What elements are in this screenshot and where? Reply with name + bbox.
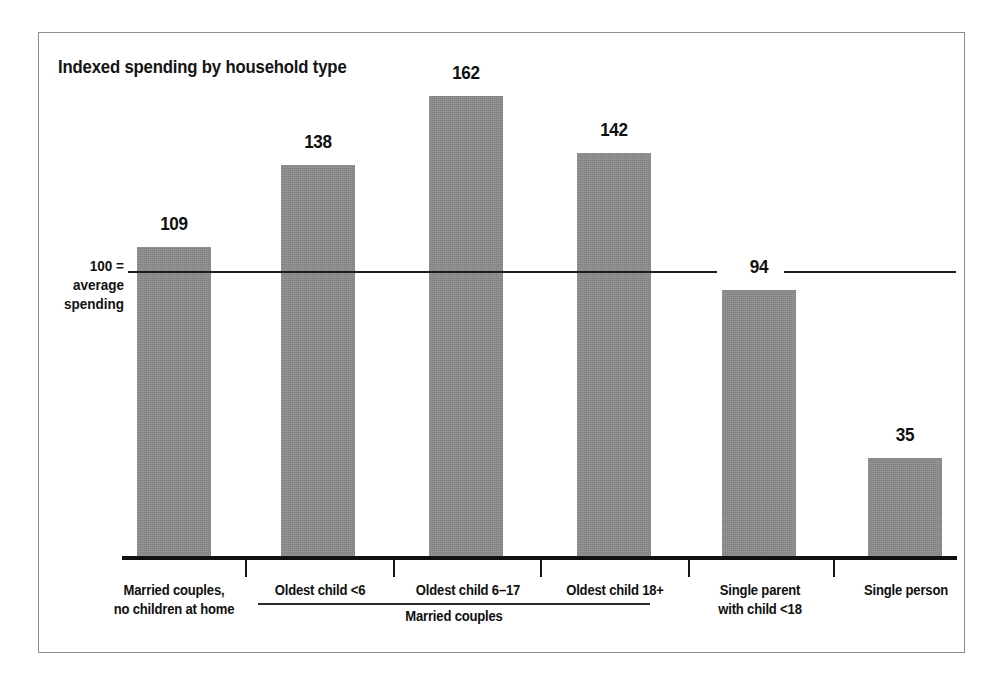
category-label-oldest-child-18-plus: Oldest child 18+: [552, 581, 678, 600]
plot-area: 109 138 162 142 94 35 100 = average spen…: [0, 0, 998, 695]
bar-single-person: [868, 458, 942, 558]
axis-tick: [688, 560, 690, 577]
bar-value-label: 162: [433, 62, 500, 84]
bar-married-no-children: [137, 247, 211, 558]
category-label-line-1: Single parent: [699, 581, 821, 600]
category-label-line-2: with child <18: [699, 600, 821, 619]
group-bracket-label: Married couples: [278, 608, 631, 624]
y-axis-annotation-line-2: average: [41, 275, 124, 294]
bar-oldest-child-under-6: [281, 165, 355, 558]
average-reference-line: [784, 271, 956, 273]
category-label-oldest-child-under-6: Oldest child <6: [257, 581, 383, 600]
bar-value-label: 94: [726, 256, 793, 278]
y-axis-annotation-line-3: spending: [41, 294, 124, 313]
axis-tick: [540, 560, 542, 577]
category-label-line-2: no children at home: [111, 600, 237, 619]
y-axis-annotation-line-1: 100 =: [41, 256, 124, 275]
bar-single-parent: [722, 290, 796, 558]
y-axis-annotation: 100 = average spending: [41, 256, 124, 313]
category-label-line-1: Oldest child <6: [257, 581, 383, 600]
category-label-line-1: Oldest child 6–17: [403, 581, 533, 600]
axis-tick: [245, 560, 247, 577]
bar-value-label: 35: [872, 424, 939, 446]
axis-tick: [393, 560, 395, 577]
category-label-line-1: Single person: [845, 581, 967, 600]
bar-value-label: 138: [285, 131, 352, 153]
category-label-single-person: Single person: [845, 581, 967, 600]
category-label-line-1: Married couples,: [111, 581, 237, 600]
bar-oldest-child-18-plus: [577, 153, 651, 558]
axis-tick: [833, 560, 835, 577]
bar-oldest-child-6-17: [429, 96, 503, 558]
category-label-oldest-child-6-17: Oldest child 6–17: [403, 581, 533, 600]
bar-value-label: 109: [141, 213, 208, 235]
category-label-single-parent: Single parent with child <18: [699, 581, 821, 619]
chart-figure: Indexed spending by household type 109 1…: [0, 0, 998, 695]
average-reference-line: [128, 271, 717, 273]
group-bracket-line: [258, 603, 650, 605]
category-label-married-no-children: Married couples, no children at home: [111, 581, 237, 619]
category-label-line-1: Oldest child 18+: [552, 581, 678, 600]
bar-value-label: 142: [581, 119, 648, 141]
